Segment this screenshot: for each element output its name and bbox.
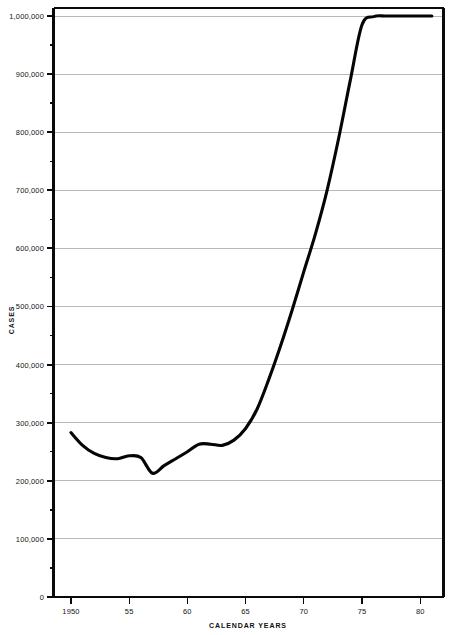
y-tick-label: 100,000 <box>16 535 44 544</box>
y-tick-label: 800,000 <box>16 128 44 137</box>
y-tick-label: 600,000 <box>16 244 44 253</box>
x-tick-label: 65 <box>241 607 250 616</box>
cases-line-series <box>71 16 432 474</box>
y-axis-title: CASES <box>8 306 15 335</box>
y-tick-label: 200,000 <box>16 477 44 486</box>
x-axis-title: CALENDAR YEARS <box>209 622 287 629</box>
chart-figure: 0100,000200,000300,000400,000500,000600,… <box>0 0 456 635</box>
y-tick-label: 300,000 <box>16 419 44 428</box>
y-tick-label: 0 <box>40 593 44 602</box>
x-tick-label: 1950 <box>62 607 79 616</box>
gridlines-group <box>54 16 444 539</box>
x-tick-label: 55 <box>125 607 134 616</box>
x-axis-tick-labels-group: 1950556065707580 <box>62 607 424 616</box>
y-tick-label: 500,000 <box>16 302 44 311</box>
y-tick-label: 700,000 <box>16 186 44 195</box>
y-tick-label: 1,000,000 <box>9 12 44 21</box>
x-tick-label: 75 <box>358 607 367 616</box>
y-tick-label: 400,000 <box>16 361 44 370</box>
x-tick-label: 80 <box>416 607 425 616</box>
x-tick-label: 70 <box>299 607 308 616</box>
line-chart: 0100,000200,000300,000400,000500,000600,… <box>0 0 456 635</box>
x-tick-label: 60 <box>183 607 192 616</box>
y-tick-label: 900,000 <box>16 70 44 79</box>
